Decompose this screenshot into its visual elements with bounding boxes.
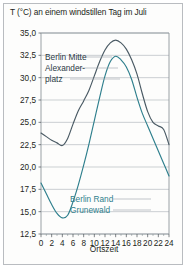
y-tick-label: 25,0 (20, 118, 36, 127)
y-tick-label: 22,5 (20, 141, 36, 150)
x-tick-label: 24 (164, 239, 174, 248)
y-tick-label: 30,0 (20, 74, 36, 83)
x-tick-label: 18 (132, 239, 142, 248)
legend-label-berlin-rand: Berlin Rand (70, 194, 114, 204)
x-tick-label: 20 (143, 239, 153, 248)
chart-svg: 35,032,530,027,525,022,520,017,515,012,5… (0, 0, 187, 269)
x-tick-label: 6 (71, 239, 76, 248)
x-tick-label: 8 (81, 239, 86, 248)
y-tick-label: 32,5 (20, 51, 36, 60)
legend-label-berlin-rand: Grunewald (70, 205, 111, 215)
legend-label-berlin-mitte: platz (45, 74, 63, 84)
series-annotations: Berlin MitteAlexander-platzBerlin RandGr… (45, 52, 114, 215)
x-tick-label: 0 (39, 239, 44, 248)
legend-label-berlin-mitte: Berlin Mitte (45, 52, 87, 62)
y-tick-label: 15,0 (20, 208, 36, 217)
x-tick-label: 2 (49, 239, 54, 248)
x-tick-label: 22 (154, 239, 164, 248)
y-tick-label: 20,0 (20, 163, 36, 172)
legend-label-berlin-mitte: Alexander- (45, 63, 85, 73)
y-tick-label: 35,0 (20, 29, 36, 38)
chart-canvas: 35,032,530,027,525,022,520,017,515,012,5… (0, 0, 187, 269)
y-tick-label: 12,5 (20, 230, 36, 239)
y-axis-ticklabels: 35,032,530,027,525,022,520,017,515,012,5 (20, 29, 41, 239)
x-axis-ticks (41, 234, 169, 237)
x-axis-label: Ortszeit (90, 244, 119, 254)
y-tick-label: 17,5 (20, 185, 36, 194)
x-tick-label: 16 (122, 239, 132, 248)
y-tick-label: 27,5 (20, 96, 36, 105)
x-tick-label: 4 (60, 239, 65, 248)
